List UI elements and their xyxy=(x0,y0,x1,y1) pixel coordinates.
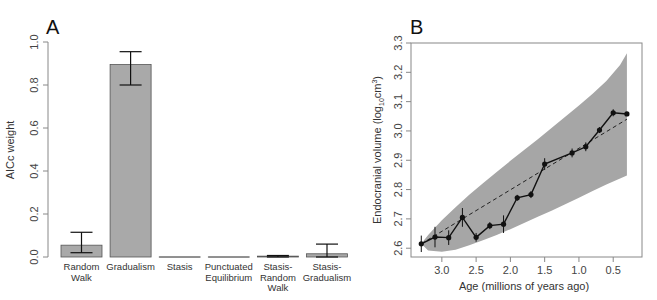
panel-a: A 0.00.20.40.60.81.0 AICc weight RandomW… xyxy=(4,16,351,293)
panel-b-y-ticks: 2.62.72.82.93.03.13.23.3 xyxy=(392,35,411,256)
figure: A 0.00.20.40.60.81.0 AICc weight RandomW… xyxy=(0,0,657,300)
panel-b-y-tick-label: 2.8 xyxy=(392,182,404,197)
panel-b-letter: B xyxy=(410,16,423,38)
panel-b-data-point xyxy=(542,161,547,166)
panel-a-category-label: Walk xyxy=(71,272,92,283)
panel-b-y-axis-title-unit: cm xyxy=(371,84,383,99)
panel-a-bars xyxy=(61,65,348,257)
panel-b-data-point xyxy=(432,234,437,239)
panel-a-y-tick-label: 0.2 xyxy=(28,206,40,221)
panel-a-category-label: Gradualism xyxy=(106,261,155,272)
panel-a-category-label: Punctuated xyxy=(205,261,253,272)
panel-b-x-axis-title: Age (millions of years ago) xyxy=(459,280,589,292)
panel-b-data-point xyxy=(419,241,424,246)
panel-b-data-point xyxy=(446,235,451,240)
panel-b-y-tick-label: 3.1 xyxy=(392,94,404,109)
panel-b-y-tick-label: 2.6 xyxy=(392,241,404,256)
panel-b-y-axis-title: Endocranial volume (log10cm3) xyxy=(371,76,385,224)
panel-b-envelope xyxy=(421,53,627,251)
panel-b-data-point xyxy=(501,222,506,227)
panel-b-data-point xyxy=(487,223,492,228)
panel-b-data-point xyxy=(528,192,533,197)
panel-a-y-ticks: 0.00.20.40.60.81.0 xyxy=(28,34,48,264)
panel-b-y-tick-label: 3.2 xyxy=(392,65,404,80)
panel-b-x-ticks: 3.02.52.01.51.00.5 xyxy=(434,257,621,276)
panel-b-data-point xyxy=(597,127,602,132)
panel-a-category-label: Walk xyxy=(268,282,289,293)
panel-b-x-tick-label: 0.5 xyxy=(606,264,621,276)
panel-b-y-axis-title-sub: 10 xyxy=(378,98,385,106)
panel-a-y-tick-label: 0.0 xyxy=(28,249,40,264)
panel-a-letter: A xyxy=(46,16,60,38)
panel-b: B 2.62.72.82.93.03.13.23.3 3.02.52.01.51… xyxy=(371,16,642,292)
panel-b-data-point xyxy=(460,215,465,220)
panel-b-x-tick-label: 2.0 xyxy=(503,264,518,276)
panel-a-category-label: Stasis xyxy=(167,261,193,272)
panel-a-category-labels: RandomWalkGradualismStasisPunctuatedEqui… xyxy=(64,261,352,293)
panel-b-y-tick-label: 3.3 xyxy=(392,35,404,50)
panel-b-y-axis-title-main: Endocranial volume (log xyxy=(371,106,383,224)
panel-b-x-tick-label: 1.0 xyxy=(571,264,586,276)
panel-b-data-point xyxy=(515,195,520,200)
panel-b-y-tick-label: 3.0 xyxy=(392,123,404,138)
panel-a-category-label: Random xyxy=(260,272,296,283)
panel-a-category-label: Gradualism xyxy=(303,272,352,283)
panel-b-y-tick-label: 2.9 xyxy=(392,153,404,168)
panel-b-envelope-area xyxy=(421,53,627,251)
panel-b-data-point xyxy=(611,110,616,115)
panel-a-y-tick-label: 0.6 xyxy=(28,120,40,135)
panel-b-x-tick-label: 2.5 xyxy=(468,264,483,276)
panel-b-data-point xyxy=(624,111,629,116)
panel-a-bar xyxy=(110,65,151,257)
panel-b-y-axis-title-close: ) xyxy=(371,76,383,80)
panel-a-y-tick-label: 0.4 xyxy=(28,163,40,178)
panel-b-data-point xyxy=(569,150,574,155)
panel-a-y-axis-title: AICc weight xyxy=(4,121,16,180)
panel-b-data-point xyxy=(474,235,479,240)
panel-b-y-tick-label: 2.7 xyxy=(392,211,404,226)
panel-a-category-label: Random xyxy=(64,261,100,272)
panel-a-category-label: Stasis- xyxy=(312,261,341,272)
panel-b-x-tick-label: 1.5 xyxy=(537,264,552,276)
panel-a-y-tick-label: 0.8 xyxy=(28,77,40,92)
panel-b-data-point xyxy=(583,144,588,149)
panel-b-x-tick-label: 3.0 xyxy=(434,264,449,276)
panel-a-category-label: Equilibrium xyxy=(205,272,252,283)
panel-a-y-tick-label: 1.0 xyxy=(28,34,40,49)
panel-a-category-label: Stasis- xyxy=(263,261,292,272)
